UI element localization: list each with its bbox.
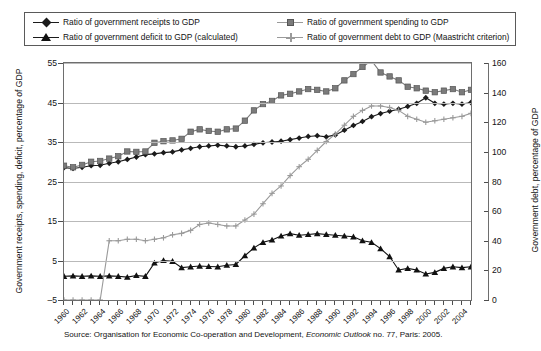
x-tick-mark bbox=[81, 301, 82, 305]
legend-label-debt: Ratio of government debt to GDP (Maastri… bbox=[307, 33, 509, 42]
gridlines bbox=[64, 63, 471, 300]
x-tick-mark bbox=[325, 301, 326, 305]
source-italic: Economic Outlook bbox=[306, 330, 371, 339]
x-tick-mark bbox=[470, 301, 471, 305]
x-tick-mark bbox=[443, 301, 444, 305]
triangle-marker-icon bbox=[33, 32, 59, 43]
plot-area bbox=[63, 62, 472, 301]
gridline bbox=[64, 182, 471, 183]
x-tick-mark bbox=[72, 301, 73, 305]
x-tick-mark bbox=[461, 301, 462, 305]
x-tick-mark bbox=[63, 301, 64, 305]
right-axis-spine bbox=[488, 63, 489, 300]
x-tick-mark bbox=[253, 301, 254, 305]
right-axis-title: Government debt, percentage of GDP bbox=[530, 60, 540, 300]
legend-item-deficit: Ratio of government deficit to GDP (calc… bbox=[33, 30, 238, 45]
x-tick-mark bbox=[90, 301, 91, 305]
x-tick-mark bbox=[244, 301, 245, 305]
right-tick-label: 20 bbox=[492, 265, 522, 275]
legend-item-receipts: Ratio of government receipts to GDP bbox=[33, 15, 200, 30]
x-tick-mark bbox=[162, 301, 163, 305]
x-axis: 1960196219641966196819701972197419761978… bbox=[63, 301, 472, 309]
x-tick-mark bbox=[398, 301, 399, 305]
source-suffix: no. 77, Paris: 2005. bbox=[371, 330, 443, 339]
left-tick-label: 45 bbox=[31, 98, 57, 108]
left-tick-label: –5 bbox=[31, 295, 57, 305]
legend-label-spending: Ratio of government spending to GDP bbox=[307, 18, 449, 27]
x-tick-mark bbox=[262, 301, 263, 305]
source-note: Source: Organisation for Economic Co-ope… bbox=[64, 330, 442, 339]
chart-page: Ratio of government receipts to GDP Rati… bbox=[0, 0, 541, 351]
gridline bbox=[64, 63, 471, 64]
square-marker-icon bbox=[277, 17, 303, 28]
x-tick-mark bbox=[235, 301, 236, 305]
x-tick-mark bbox=[380, 301, 381, 305]
x-tick-mark bbox=[407, 301, 408, 305]
right-tick-label: 160 bbox=[492, 58, 522, 68]
x-tick-mark bbox=[126, 301, 127, 305]
right-tick-label: 100 bbox=[492, 147, 522, 157]
gridline bbox=[64, 221, 471, 222]
left-tick-label: 15 bbox=[31, 216, 57, 226]
x-tick-mark bbox=[271, 301, 272, 305]
x-tick-mark bbox=[280, 301, 281, 305]
x-tick-mark bbox=[217, 301, 218, 305]
x-tick-mark bbox=[181, 301, 182, 305]
gridline bbox=[64, 142, 471, 143]
x-tick-mark bbox=[226, 301, 227, 305]
x-tick-mark bbox=[144, 301, 145, 305]
x-tick-mark bbox=[172, 301, 173, 305]
left-tick-label: 55 bbox=[31, 58, 57, 68]
right-tick-label: 120 bbox=[492, 117, 522, 127]
x-tick-mark bbox=[352, 301, 353, 305]
x-tick-mark bbox=[452, 301, 453, 305]
gridline bbox=[64, 103, 471, 104]
x-tick-mark bbox=[343, 301, 344, 305]
x-tick-mark bbox=[117, 301, 118, 305]
right-tick-mark bbox=[484, 300, 489, 301]
x-tick-mark bbox=[289, 301, 290, 305]
right-tick-label: 40 bbox=[492, 236, 522, 246]
diamond-marker-icon bbox=[33, 17, 59, 28]
legend-item-spending: Ratio of government spending to GDP bbox=[277, 15, 449, 30]
legend-label-receipts: Ratio of government receipts to GDP bbox=[63, 18, 200, 27]
legend-row-2: Ratio of government deficit to GDP (calc… bbox=[25, 30, 515, 45]
x-tick-mark bbox=[434, 301, 435, 305]
x-tick-mark bbox=[108, 301, 109, 305]
cross-marker-icon bbox=[277, 32, 303, 43]
gridline bbox=[64, 261, 471, 262]
x-tick-mark bbox=[135, 301, 136, 305]
x-tick-mark bbox=[371, 301, 372, 305]
right-tick-label: 60 bbox=[492, 206, 522, 216]
x-tick-mark bbox=[416, 301, 417, 305]
x-tick-mark bbox=[307, 301, 308, 305]
right-tick-label: 80 bbox=[492, 177, 522, 187]
source-prefix: Source: Organisation for Economic Co-ope… bbox=[64, 330, 306, 339]
x-tick-mark bbox=[389, 301, 390, 305]
x-tick-mark bbox=[316, 301, 317, 305]
x-tick-mark bbox=[99, 301, 100, 305]
x-tick-mark bbox=[153, 301, 154, 305]
right-tick-label: 140 bbox=[492, 88, 522, 98]
x-tick-mark bbox=[361, 301, 362, 305]
legend-row-1: Ratio of government receipts to GDP Rati… bbox=[25, 15, 515, 30]
legend-item-debt: Ratio of government debt to GDP (Maastri… bbox=[277, 30, 509, 45]
left-tick-label: 25 bbox=[31, 177, 57, 187]
right-tick-label: 0 bbox=[492, 295, 522, 305]
x-tick-mark bbox=[199, 301, 200, 305]
x-tick-mark bbox=[334, 301, 335, 305]
left-tick-label: 35 bbox=[31, 137, 57, 147]
legend-label-deficit: Ratio of government deficit to GDP (calc… bbox=[63, 33, 238, 42]
left-tick-label: 5 bbox=[31, 256, 57, 266]
x-tick-mark bbox=[208, 301, 209, 305]
x-tick-mark bbox=[190, 301, 191, 305]
chart-legend: Ratio of government receipts to GDP Rati… bbox=[24, 12, 516, 46]
x-tick-mark bbox=[425, 301, 426, 305]
left-axis-title: Government receipts, spending, deficit, … bbox=[14, 67, 25, 295]
x-tick-mark bbox=[298, 301, 299, 305]
